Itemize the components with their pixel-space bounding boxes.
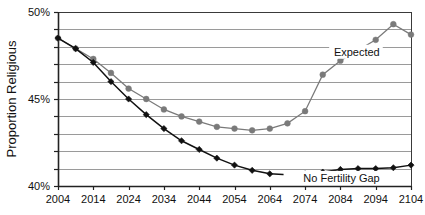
x-tick-label-2014: 2014 [81, 193, 105, 205]
x-tick-label-2004: 2004 [46, 193, 70, 205]
data-point [161, 107, 167, 113]
data-point [214, 124, 220, 130]
data-point [108, 70, 114, 76]
y-tick-labels: 40%45%50% [28, 6, 50, 192]
data-point [126, 86, 132, 92]
data-point [390, 21, 396, 27]
series-label-no-fertility-gap: No Fertility Gap [284, 171, 383, 185]
data-point [249, 127, 255, 133]
religiosity-projection-chart: 40%45%50%2004201420242034204420542064207… [0, 0, 425, 215]
series-label-text: Expected [334, 46, 380, 58]
data-point [267, 126, 273, 132]
x-tick-label-2024: 2024 [116, 193, 140, 205]
x-tick-label-2094: 2094 [363, 193, 387, 205]
chart-canvas: 40%45%50%2004201420242034204420542064207… [0, 0, 425, 215]
data-point [143, 96, 149, 102]
x-tick-label-2034: 2034 [152, 193, 176, 205]
data-point [196, 119, 202, 125]
y-tick-label-50%: 50% [28, 6, 50, 18]
data-point [285, 120, 291, 126]
y-tick-label-45%: 45% [28, 93, 50, 105]
data-point [179, 114, 185, 120]
y-axis-title: Proportion Religious [4, 40, 19, 158]
x-tick-label-2054: 2054 [222, 193, 246, 205]
x-tick-label-2104: 2104 [399, 193, 423, 205]
data-point [232, 126, 238, 132]
series-label-expected: Expected [329, 45, 383, 59]
x-tick-label-2044: 2044 [187, 193, 211, 205]
x-tick-label-2064: 2064 [258, 193, 282, 205]
data-point [408, 32, 414, 38]
series-label-text: No Fertility Gap [303, 172, 379, 184]
y-tick-label-40%: 40% [28, 180, 50, 192]
data-point [302, 108, 308, 114]
x-tick-label-2084: 2084 [328, 193, 352, 205]
data-point [373, 37, 379, 43]
data-point [320, 72, 326, 78]
x-tick-label-2074: 2074 [293, 193, 317, 205]
x-tick-labels: 2004201420242034204420542064207420842094… [46, 193, 423, 205]
